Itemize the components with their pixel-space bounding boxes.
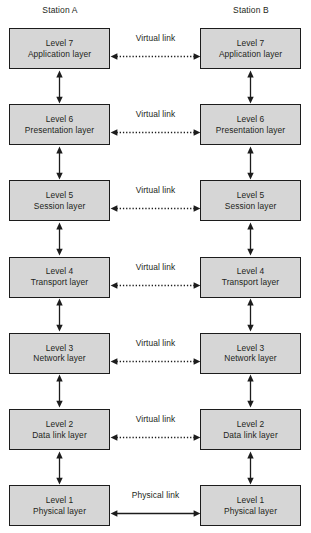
layer-level-label: Level 2: [237, 419, 265, 430]
link-row-level-1: Physical link: [110, 485, 201, 526]
virtual-link-arrow-icon: [110, 52, 201, 61]
interlayer-arrow-icon: [246, 146, 255, 180]
layer-box-station-b-level-6[interactable]: Level 6Presentation layer: [200, 104, 301, 145]
physical-link-arrow-icon: [110, 509, 201, 518]
layer-box-station-b-level-3[interactable]: Level 3Network layer: [200, 333, 301, 374]
link-label-level-4: Virtual link: [110, 262, 201, 272]
layer-level-label: Level 7: [46, 38, 74, 49]
interlayer-arrow-icon: [246, 451, 255, 485]
link-row-level-7: Virtual link: [110, 28, 201, 69]
link-label-level-7: Virtual link: [110, 33, 201, 43]
link-connector-level-3: [110, 357, 201, 366]
interlayer-arrow-icon: [55, 374, 64, 408]
layer-box-station-b-level-2[interactable]: Level 2Data link layer: [200, 409, 301, 450]
layer-level-label: Level 5: [237, 190, 265, 201]
station-a-label: Station A: [9, 5, 111, 15]
layer-name-label: Network layer: [33, 353, 86, 364]
layer-name-label: Physical layer: [224, 506, 277, 517]
layer-level-label: Level 2: [46, 419, 74, 430]
link-connector-level-4: [110, 281, 201, 290]
link-connector-level-2: [110, 433, 201, 442]
layer-level-label: Level 1: [46, 495, 74, 506]
layer-level-label: Level 3: [46, 343, 74, 354]
interlayer-arrow-icon: [246, 298, 255, 332]
vertical-connector-station-b-4-to-3: [246, 298, 255, 332]
link-label-level-6: Virtual link: [110, 109, 201, 119]
layer-name-label: Presentation layer: [216, 125, 285, 136]
layer-level-label: Level 4: [46, 266, 74, 277]
link-label-level-1: Physical link: [110, 490, 201, 500]
vertical-connector-station-b-3-to-2: [246, 374, 255, 408]
layer-box-station-b-level-7[interactable]: Level 7Application layer: [200, 28, 301, 69]
link-connector-level-5: [110, 204, 201, 213]
vertical-connector-station-a-7-to-6: [55, 70, 64, 104]
vertical-connector-station-a-6-to-5: [55, 146, 64, 180]
interlayer-arrow-icon: [55, 146, 64, 180]
layer-box-station-a-level-3[interactable]: Level 3Network layer: [9, 333, 110, 374]
layer-name-label: Session layer: [225, 201, 277, 212]
interlayer-arrow-icon: [246, 222, 255, 256]
layer-name-label: Application layer: [28, 49, 91, 60]
station-b-label: Station B: [200, 5, 302, 15]
layer-name-label: Data link layer: [223, 430, 278, 441]
layer-box-station-a-level-2[interactable]: Level 2Data link layer: [9, 409, 110, 450]
interlayer-arrow-icon: [55, 451, 64, 485]
layer-level-label: Level 3: [237, 343, 265, 354]
layer-box-station-a-level-7[interactable]: Level 7Application layer: [9, 28, 110, 69]
vertical-connector-station-a-4-to-3: [55, 298, 64, 332]
vertical-connector-station-a-3-to-2: [55, 374, 64, 408]
link-connector-level-1: [110, 509, 201, 518]
layer-box-station-b-level-1[interactable]: Level 1Physical layer: [200, 485, 301, 526]
layer-name-label: Physical layer: [33, 506, 86, 517]
layer-level-label: Level 7: [237, 38, 265, 49]
link-label-level-2: Virtual link: [110, 414, 201, 424]
vertical-connector-station-a-2-to-1: [55, 451, 64, 485]
layer-level-label: Level 1: [237, 495, 265, 506]
vertical-connector-station-b-7-to-6: [246, 70, 255, 104]
interlayer-arrow-icon: [246, 374, 255, 408]
link-row-level-2: Virtual link: [110, 409, 201, 450]
virtual-link-arrow-icon: [110, 433, 201, 442]
layer-box-station-b-level-4[interactable]: Level 4Transport layer: [200, 257, 301, 298]
virtual-link-arrow-icon: [110, 204, 201, 213]
layer-name-label: Transport layer: [31, 277, 89, 288]
layer-name-label: Network layer: [224, 353, 277, 364]
virtual-link-arrow-icon: [110, 281, 201, 290]
interlayer-arrow-icon: [55, 222, 64, 256]
vertical-connector-station-b-6-to-5: [246, 146, 255, 180]
layer-level-label: Level 6: [46, 114, 74, 125]
vertical-connector-station-b-5-to-4: [246, 222, 255, 256]
link-row-level-4: Virtual link: [110, 257, 201, 298]
link-row-level-5: Virtual link: [110, 180, 201, 221]
link-row-level-3: Virtual link: [110, 333, 201, 374]
layer-name-label: Session layer: [34, 201, 86, 212]
layer-box-station-b-level-5[interactable]: Level 5Session layer: [200, 180, 301, 221]
link-connector-level-7: [110, 52, 201, 61]
layer-box-station-a-level-5[interactable]: Level 5Session layer: [9, 180, 110, 221]
layer-name-label: Application layer: [219, 49, 282, 60]
virtual-link-arrow-icon: [110, 128, 201, 137]
interlayer-arrow-icon: [55, 298, 64, 332]
osi-layers-diagram: Station A Station B Level 7Application l…: [0, 0, 311, 533]
virtual-link-arrow-icon: [110, 357, 201, 366]
interlayer-arrow-icon: [246, 70, 255, 104]
interlayer-arrow-icon: [55, 70, 64, 104]
layer-name-label: Presentation layer: [25, 125, 94, 136]
layer-box-station-a-level-4[interactable]: Level 4Transport layer: [9, 257, 110, 298]
layer-level-label: Level 5: [46, 190, 74, 201]
link-connector-level-6: [110, 128, 201, 137]
link-row-level-6: Virtual link: [110, 104, 201, 145]
layer-level-label: Level 6: [237, 114, 265, 125]
layer-name-label: Data link layer: [32, 430, 87, 441]
vertical-connector-station-a-5-to-4: [55, 222, 64, 256]
layer-level-label: Level 4: [237, 266, 265, 277]
layer-name-label: Transport layer: [222, 277, 280, 288]
layer-box-station-a-level-6[interactable]: Level 6Presentation layer: [9, 104, 110, 145]
link-label-level-3: Virtual link: [110, 338, 201, 348]
vertical-connector-station-b-2-to-1: [246, 451, 255, 485]
layer-box-station-a-level-1[interactable]: Level 1Physical layer: [9, 485, 110, 526]
link-label-level-5: Virtual link: [110, 185, 201, 195]
